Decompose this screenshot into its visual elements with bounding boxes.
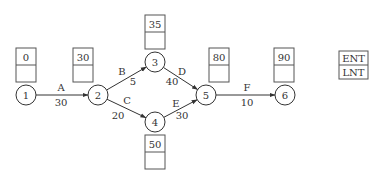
event-time-box-1: 0: [16, 48, 36, 82]
event-node-label: 6: [282, 90, 288, 101]
legend-box: ENT LNT: [339, 51, 368, 79]
event-node-4: 4: [145, 112, 165, 132]
event-node-2: 2: [88, 85, 108, 105]
activity-name-label: B: [118, 66, 125, 77]
event-time-box-6: 90: [274, 48, 294, 82]
activity-name-label: A: [56, 82, 65, 93]
earliest-time-value: 35: [149, 19, 162, 30]
activity-name-label: C: [123, 95, 131, 106]
activity-arrow-b: [107, 67, 147, 90]
event-node-label: 2: [95, 90, 101, 101]
activity-duration-label: 40: [166, 76, 179, 87]
activity-name-label: F: [244, 82, 251, 93]
legend-lnt-label: LNT: [342, 67, 364, 78]
activity-name-label: D: [178, 66, 186, 77]
event-node-label: 5: [203, 90, 209, 101]
earliest-time-value: 50: [149, 139, 162, 150]
activity-duration-label: 30: [176, 110, 189, 121]
event-time-box-3: 35: [145, 15, 165, 49]
earliest-time-value: 30: [77, 52, 90, 63]
event-time-box-2: 30: [73, 48, 93, 82]
legend-ent-label: ENT: [342, 53, 365, 64]
event-node-label: 3: [152, 57, 158, 68]
event-node-label: 1: [23, 90, 29, 101]
event-node-5: 5: [196, 85, 216, 105]
earliest-time-value: 90: [278, 52, 291, 63]
earliest-time-value: 0: [23, 52, 29, 63]
activity-duration-label: 20: [112, 110, 125, 121]
event-node-3: 3: [145, 52, 165, 72]
activity-name-label: E: [172, 98, 179, 109]
event-node-1: 1: [16, 85, 36, 105]
activity-duration-label: 30: [55, 97, 68, 108]
event-node-6: 6: [275, 85, 295, 105]
event-time-box-4: 50: [145, 135, 165, 169]
activity-arrows: [36, 67, 275, 118]
event-node-label: 4: [152, 117, 158, 128]
earliest-time-value: 80: [213, 52, 226, 63]
activity-duration-label: 10: [241, 97, 254, 108]
activity-duration-label: 5: [130, 76, 136, 87]
network-diagram: A30B5C20D40E30F10 03035508090 123456 ENT…: [0, 0, 380, 180]
event-time-box-5: 80: [209, 48, 229, 82]
